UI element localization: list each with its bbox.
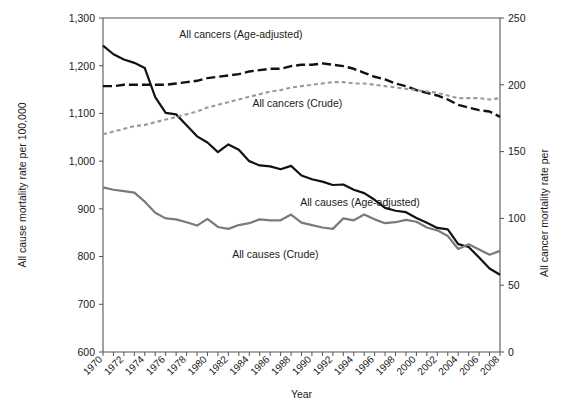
x-axis-tick-label-group: 2006: [457, 353, 481, 377]
x-axis-tick-label-group: 1996: [353, 353, 377, 377]
series-annotation-label: All cancers (Age-adjusted): [179, 28, 302, 40]
x-axis-tick-label: 1990: [290, 353, 314, 377]
y-axis-tick-label: 1,000: [69, 155, 95, 167]
y2-axis-title-group: All cancer mortality rate per: [538, 149, 550, 277]
y2-axis-tick-label: 0: [508, 346, 514, 358]
series-annotation-label: All causes (Age-adjusted): [300, 196, 420, 208]
y-axis-tick-label: 600: [77, 346, 95, 358]
x-axis-tick-label-group: 1976: [144, 353, 168, 377]
x-axis-tick-label: 1982: [206, 353, 230, 377]
y-axis-tick-label: 1,200: [69, 60, 95, 72]
x-axis-tick-label: 1972: [102, 353, 126, 377]
x-axis-tick-label-group: 1988: [269, 353, 293, 377]
x-axis-tick-label-group: 1994: [332, 353, 356, 377]
axes-layer: [99, 18, 504, 356]
y-axis-tick-label: 1,100: [69, 107, 95, 119]
chart-figure: All causes (Age-adjusted)All causes (Cru…: [0, 0, 566, 407]
x-axis-tick-label: 1984: [227, 353, 251, 377]
x-axis-tick-label: 1992: [311, 353, 335, 377]
y2-axis-tick-label: 50: [508, 279, 520, 291]
line-chart: All causes (Age-adjusted)All causes (Cru…: [0, 0, 566, 407]
x-axis-tick-label: 1980: [185, 353, 209, 377]
x-axis-tick-label: 1976: [144, 353, 168, 377]
y-axis-tick-label: 900: [77, 203, 95, 215]
y2-axis-tick-label: 250: [508, 12, 526, 24]
x-axis-tick-label: 1988: [269, 353, 293, 377]
x-axis-tick-label-group: 2002: [415, 353, 439, 377]
y-axis-tick-label: 1,300: [69, 12, 95, 24]
x-axis-tick-label: 1974: [123, 353, 147, 377]
x-axis-tick-label: 2006: [457, 353, 481, 377]
y2-axis-tick-label: 100: [508, 212, 526, 224]
x-axis-tick-label-group: 2008: [478, 353, 502, 377]
y2-axis-tick-label: 150: [508, 145, 526, 157]
x-axis-tick-label: 1996: [353, 353, 377, 377]
x-axis-tick-label: 2008: [478, 353, 502, 377]
x-axis-tick-label-group: 2004: [436, 353, 460, 377]
series-line-0: [103, 46, 500, 275]
x-axis-tick-label: 2000: [394, 353, 418, 377]
x-axis-tick-label-group: 2000: [394, 353, 418, 377]
y2-axis-title: All cancer mortality rate per: [538, 149, 550, 277]
x-axis-tick-label-group: 1972: [102, 353, 126, 377]
x-axis-tick-label-group: 1978: [164, 353, 188, 377]
series-layer: [103, 46, 500, 275]
x-axis-tick-label: 1978: [164, 353, 188, 377]
y-axis-title-group: All cause mortality rate per 100,000: [16, 102, 28, 267]
x-axis-tick-label: 2002: [415, 353, 439, 377]
x-axis-tick-label: 1986: [248, 353, 272, 377]
y-axis-title: All cause mortality rate per 100,000: [16, 102, 28, 267]
x-axis-tick-label: 1994: [332, 353, 356, 377]
series-annotation-label: All causes (Crude): [232, 248, 318, 260]
x-axis-tick-label-group: 1982: [206, 353, 230, 377]
x-axis-tick-label: 1998: [373, 353, 397, 377]
x-axis-tick-label-group: 1992: [311, 353, 335, 377]
y-axis-tick-label: 700: [77, 298, 95, 310]
x-axis-tick-label-group: 1984: [227, 353, 251, 377]
x-axis-tick-label-group: 1986: [248, 353, 272, 377]
x-axis-tick-label-group: 1974: [123, 353, 147, 377]
x-axis-tick-label-group: 1998: [373, 353, 397, 377]
series-annotation-label: All cancers (Crude): [252, 97, 342, 109]
x-axis-tick-label-group: 1980: [185, 353, 209, 377]
x-axis-tick-label: 2004: [436, 353, 460, 377]
y2-axis-tick-label: 200: [508, 79, 526, 91]
x-axis-title: Year: [291, 388, 313, 400]
x-axis-tick-label-group: 1990: [290, 353, 314, 377]
y-axis-tick-label: 800: [77, 250, 95, 262]
